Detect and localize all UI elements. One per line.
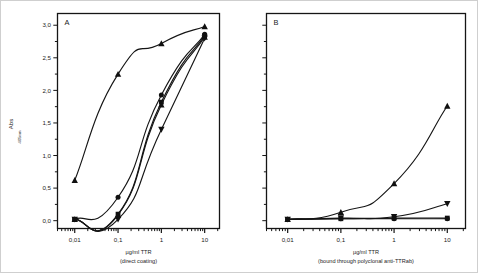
panel-label-B: B	[274, 18, 279, 27]
y-tick-label: 1,5	[42, 119, 51, 126]
x-tick-label: 0,01	[282, 236, 295, 243]
y-tick-label: 0,0	[42, 217, 51, 224]
x-tick-label: 0,1	[337, 236, 346, 243]
x-axis-subtitle-B: (bound through polyclonal anti-TTRab)	[318, 258, 414, 264]
x-tick-label: 1	[392, 236, 396, 243]
y-tick-label: 2,5	[42, 54, 51, 61]
y-tick-label: 2,0	[42, 87, 51, 94]
x-axis-title-B: µg/ml TTR	[353, 249, 379, 255]
data-point-square	[338, 216, 343, 221]
panel-label-A: A	[65, 18, 70, 27]
x-tick-label: 0,01	[69, 236, 82, 243]
x-axis-title-A: µg/ml TTR	[125, 249, 151, 255]
y-axis-label: Abs	[8, 119, 14, 129]
data-point-square	[285, 217, 290, 222]
data-point-square	[445, 216, 450, 221]
x-tick-label: 10	[444, 236, 451, 243]
figure-background	[1, 1, 478, 273]
data-point-square	[392, 216, 397, 221]
y-tick-label: 0,5	[42, 184, 51, 191]
data-point-circle	[159, 92, 164, 97]
x-tick-label: 1	[160, 236, 164, 243]
y-axis-label-subscript: 405nm	[17, 130, 22, 143]
x-axis-subtitle-A: (direct coating)	[120, 258, 157, 264]
y-tick-label: 3,0	[42, 21, 51, 28]
x-tick-label: 0,1	[114, 236, 123, 243]
two-panel-dose-response-chart: 0,00,51,01,52,02,53,00,010,1110Aµg/ml TT…	[0, 0, 478, 273]
data-point-circle	[116, 195, 121, 200]
x-tick-label: 10	[201, 236, 208, 243]
y-tick-label: 1,0	[42, 152, 51, 159]
figure-container: 0,00,51,01,52,02,53,00,010,1110Aµg/ml TT…	[0, 0, 478, 273]
